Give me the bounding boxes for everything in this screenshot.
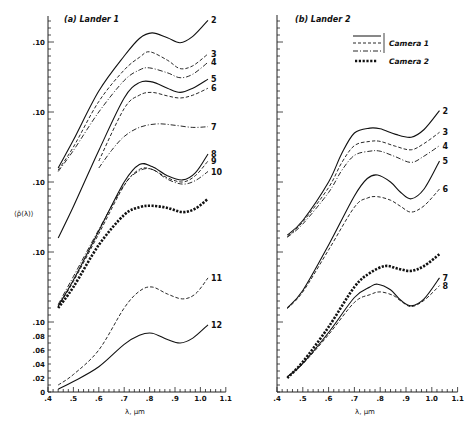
series-line-3 <box>287 132 439 236</box>
x-tick-label: 1.1 <box>220 395 233 403</box>
x-tick-label: .9 <box>402 395 410 403</box>
panel-a-title: (a) Lander 1 <box>64 15 119 24</box>
x-tick-label: 1.0 <box>426 395 439 403</box>
series-line-5 <box>58 79 208 238</box>
series-line-2 <box>58 20 208 168</box>
y-tick-label: .04 <box>33 361 46 369</box>
curve-label: 5 <box>211 75 217 84</box>
x-tick-label: .6 <box>95 395 103 403</box>
y-tick-label: 0 <box>40 389 45 397</box>
series-line-5 <box>287 161 439 308</box>
x-tick-label: .5 <box>299 395 307 403</box>
curve-label: 2 <box>443 107 449 116</box>
curve-label: 11 <box>211 274 223 283</box>
y-tick-label: .10 <box>33 179 46 187</box>
x-tick-label: .7 <box>351 395 359 403</box>
panel-b-xlabel: λ, μm <box>355 408 375 416</box>
x-tick-label: 1.1 <box>451 395 464 403</box>
series-line-4 <box>58 62 208 171</box>
x-tick-label: .9 <box>171 395 179 403</box>
curve-label: 4 <box>443 142 449 151</box>
series-line-camera-2-a- <box>58 199 208 308</box>
y-axis-label: ⟨ρ̄(λ)⟩ <box>14 210 34 218</box>
x-tick-label: .8 <box>376 395 384 403</box>
series-line-9 <box>58 161 208 307</box>
y-tick-label: .10 <box>33 39 46 47</box>
curve-label: 5 <box>443 157 449 166</box>
y-tick-label: .10 <box>33 109 46 117</box>
series-line-12 <box>58 325 208 389</box>
curve-label: 6 <box>443 185 449 194</box>
panel-a: (a) Lander 1 .4.5.6.7.8.91.01.10.02.04.0… <box>33 15 233 416</box>
curve-label: 4 <box>211 58 217 67</box>
curve-label: 6 <box>211 84 217 93</box>
y-tick-label: .10 <box>33 319 46 327</box>
y-tick-label: .08 <box>33 333 46 341</box>
y-tick-label: .10 <box>33 249 46 257</box>
series-line-7 <box>99 124 208 168</box>
legend: Camera 1 Camera 2 <box>353 33 429 66</box>
y-tick-label: .06 <box>33 347 46 355</box>
panel-a-curve-labels: 23456789101112 <box>211 16 223 330</box>
curve-label: 8 <box>443 282 449 291</box>
panel-b-curve-labels: 2345678 <box>443 107 449 291</box>
curve-label: 10 <box>211 168 223 177</box>
x-tick-label: .6 <box>325 395 333 403</box>
x-tick-label: .5 <box>70 395 78 403</box>
chart-svg: (a) Lander 1 .4.5.6.7.8.91.01.10.02.04.0… <box>0 0 473 425</box>
curve-label: 2 <box>211 16 217 25</box>
panel-b-title: (b) Lander 2 <box>295 15 351 24</box>
panel-b-curves <box>287 111 439 378</box>
curve-label: 12 <box>211 321 222 330</box>
y-tick-label: .02 <box>33 375 46 383</box>
x-tick-label: .4 <box>44 395 52 403</box>
x-tick-label: .4 <box>273 395 281 403</box>
panel-b-axes: .4.5.6.7.8.91.01.1 <box>273 15 464 403</box>
series-line-2 <box>287 111 439 236</box>
series-line-4 <box>287 146 439 238</box>
curve-label: 9 <box>211 157 217 166</box>
series-line-7 <box>287 278 439 377</box>
panel-a-curves <box>58 20 208 389</box>
series-line-3 <box>58 52 208 170</box>
series-line-camera-2-b- <box>287 254 439 378</box>
legend-camera1-label: Camera 1 <box>389 39 429 48</box>
curve-label: 3 <box>443 128 449 137</box>
legend-camera2-label: Camera 2 <box>389 57 429 66</box>
x-tick-label: 1.0 <box>194 395 207 403</box>
curve-label: 7 <box>211 123 217 132</box>
x-tick-label: .8 <box>146 395 154 403</box>
series-line-8 <box>58 154 208 306</box>
panel-b: (b) Lander 2 .4.5.6.7.8.91.01.1 2345678 … <box>273 15 464 416</box>
x-tick-label: .7 <box>120 395 128 403</box>
series-line-8 <box>287 286 439 378</box>
series-line-10 <box>58 169 208 305</box>
panel-a-xlabel: λ, μm <box>125 408 145 416</box>
series-line-11 <box>58 278 208 385</box>
